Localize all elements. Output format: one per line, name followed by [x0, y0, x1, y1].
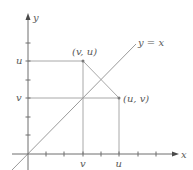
y-axis-label: y: [32, 12, 39, 23]
line-label-y-equals-x: y = x: [137, 37, 164, 48]
y-tick-label-u: u: [16, 55, 22, 66]
y-axis-arrow-icon: [26, 13, 31, 20]
point-u-v: [118, 97, 121, 100]
point-label-v-u: (v, u): [72, 46, 97, 57]
reflection-diagram: y x u v v u (v, u) (u, v) y = x: [0, 0, 193, 170]
x-axis-arrow-icon: [172, 152, 179, 157]
point-label-u-v: (u, v): [123, 93, 149, 104]
x-tick-label-v: v: [80, 158, 86, 169]
x-tick-label-u: u: [116, 158, 122, 169]
y-tick-label-v: v: [16, 92, 22, 103]
x-axis-label: x: [181, 149, 187, 160]
point-v-u: [82, 60, 85, 63]
line-y-equals-x: [12, 44, 136, 170]
